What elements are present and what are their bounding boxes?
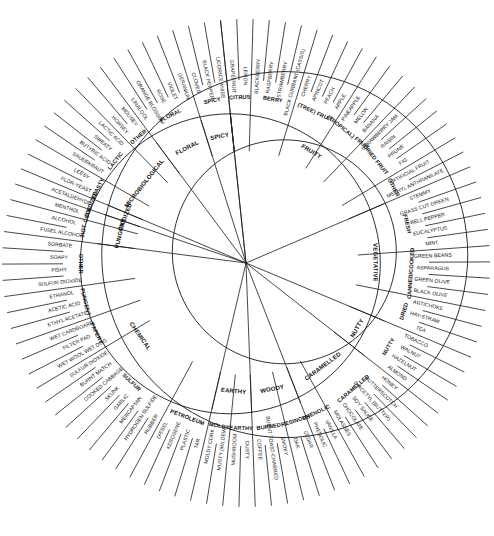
primary-class-label: FLORAL: [175, 139, 200, 156]
segment-divider: [76, 88, 119, 132]
segment-divider: [28, 154, 83, 181]
subclass-label: EARTHY: [229, 425, 253, 432]
ring-arc: [80, 114, 380, 414]
segment-divider: [429, 246, 490, 250]
descriptor-label: SORBATE: [47, 240, 73, 248]
segment-divider: [250, 375, 253, 446]
descriptor-label: PRUNE: [386, 143, 405, 159]
descriptor-label: TAR: [193, 438, 201, 450]
descriptor-label: FUSEL ALCOHOL: [40, 226, 84, 239]
segment-divider: [237, 19, 239, 80]
descriptor-label: MUSTY (MILDEW): [215, 426, 227, 471]
wine-aroma-wheel-figure: FRUITYVEGETATIVENUTTYCARAMELLEDWOODYEART…: [0, 0, 494, 536]
segment-divider: [333, 49, 362, 103]
descriptor-label: CEDAR: [303, 429, 315, 449]
descriptor-label: STEMMY: [408, 187, 432, 201]
descriptor-label: TEA: [415, 324, 427, 333]
segment-divider: [65, 239, 135, 248]
descriptor-label: SMOKY: [280, 436, 290, 456]
descriptor-label: BLACKBERRY: [253, 58, 261, 94]
descriptor-label: APPLE: [333, 92, 347, 110]
primary-class-label: CARAMELLED: [303, 350, 342, 381]
descriptor-label: FIG: [398, 156, 409, 166]
primary-class-label: CHEMICAL: [128, 321, 152, 352]
descriptor-label: FISHY: [51, 266, 67, 273]
descriptor-label: ETHANOL: [49, 289, 75, 299]
descriptor-label: MINT: [425, 239, 439, 246]
descriptor-label: SOAPY: [50, 254, 69, 261]
segment-divider: [272, 372, 289, 441]
primary-class-label: VEGETATIVE: [372, 243, 378, 282]
subclass-label: SULFUR: [121, 372, 142, 392]
descriptor-label: ARTICHOKE: [413, 299, 445, 312]
descriptor-label: PEACH: [322, 86, 336, 105]
descriptor-label: APRICOT: [310, 78, 325, 103]
segment-divider: [253, 446, 255, 507]
segment-divider: [118, 132, 168, 183]
segment-divider: [89, 403, 128, 450]
segment-divider: [88, 77, 128, 123]
descriptor-label: DUSTY: [244, 441, 250, 459]
descriptor-label: SULFUR DIOXIDE: [38, 277, 83, 288]
segment-divider: [404, 356, 457, 387]
descriptor-label: RAISIN: [379, 133, 396, 149]
segment-divider: [2, 248, 63, 252]
descriptor-label: LEMON: [243, 67, 249, 86]
descriptor-label: HAY-STRAW: [410, 310, 441, 325]
descriptor-label: ALCOHOL: [51, 214, 77, 226]
segment-divider: [54, 113, 102, 151]
descriptor-label: VIOLET: [166, 81, 179, 101]
descriptor-label: MUSHROOM: [230, 434, 238, 466]
descriptor-label: RASPBERRY: [264, 61, 274, 94]
subclass-label: OTHER: [78, 254, 84, 274]
segment-divider: [239, 446, 241, 507]
aroma-wheel-svg: FRUITYVEGETATIVENUTTYCARAMELLEDWOODYEART…: [0, 0, 494, 536]
descriptor-label: CHERRY: [300, 74, 313, 97]
subclass-label: DRIED: [398, 302, 409, 321]
segment-divider: [100, 67, 136, 116]
descriptor-label: COFFEE: [256, 439, 264, 461]
primary-class-label: WOODY: [260, 383, 285, 394]
segment-divider: [397, 366, 447, 400]
segment-divider: [77, 395, 119, 439]
descriptor-label: EUCALYPTUS: [413, 224, 449, 236]
descriptor-label: GREEN BEANS: [414, 252, 453, 259]
primary-class-label: SPICY: [210, 131, 230, 141]
primary-class-label: EARTHY: [221, 387, 247, 395]
segment-divider: [390, 376, 438, 414]
segment-divider: [289, 441, 303, 500]
ring-arc: [172, 140, 396, 364]
segment-divider: [190, 441, 204, 500]
descriptor-label: OAK: [292, 437, 301, 450]
descriptor-label: STRAWBERRY: [275, 60, 288, 98]
primary-class-label: MICROBIOLOGICAL: [123, 158, 165, 209]
descriptor-label: BELL PEPPER: [410, 211, 446, 225]
segment-divider: [396, 124, 446, 159]
descriptor-label: GRAPEFRUIT: [229, 59, 237, 94]
subclass-label: CITRUS: [229, 94, 251, 101]
descriptor-label: VANILLA: [324, 418, 339, 440]
descriptor-label: BLACK PEPPER: [202, 60, 216, 101]
descriptor-label: ASPARAGUS: [417, 264, 450, 271]
subclass-label: RESINOUS: [280, 413, 311, 428]
segment-divider: [354, 66, 390, 115]
descriptor-label: GREEN OLIVE: [414, 276, 451, 285]
segment-divider: [128, 50, 158, 103]
descriptor-label: ACETIC ACID: [47, 300, 81, 314]
segment-divider: [251, 19, 253, 80]
segment-divider: [373, 87, 415, 131]
